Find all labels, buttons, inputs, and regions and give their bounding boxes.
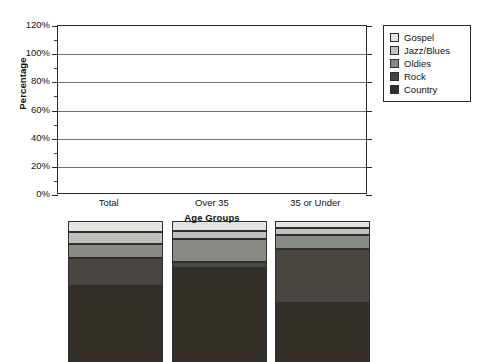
bar-segment-jazz-blues — [275, 228, 370, 235]
legend-label: Jazz/Blues — [404, 45, 450, 56]
chart-legend: GospelJazz/BluesOldiesRockCountry — [383, 25, 471, 102]
bar-segment-jazz-blues — [68, 232, 163, 243]
legend-label: Oldies — [404, 58, 431, 69]
bar-segment-country — [68, 286, 163, 362]
x-tick-label-2: 35 or Under — [264, 197, 367, 208]
y-tick-label-20: 20% — [6, 161, 50, 171]
legend-item: Rock — [390, 70, 466, 83]
y-tick-major-0 — [52, 195, 58, 196]
plot-area — [57, 25, 367, 194]
legend-item: Oldies — [390, 57, 466, 70]
y-tick-major-60 — [52, 111, 58, 112]
y-tick-major-40 — [52, 139, 58, 140]
y-tick-minor-90 — [54, 68, 58, 69]
y-tick-label-80: 80% — [6, 76, 50, 86]
y-tick-label-120: 120% — [6, 20, 50, 30]
y-tick-minor-10 — [54, 181, 58, 182]
bar-group — [172, 24, 267, 193]
legend-item: Gospel — [390, 31, 466, 44]
bar-segment-country — [172, 268, 267, 362]
y-tick-label-0: 0% — [6, 189, 50, 199]
bar-segment-country — [275, 303, 370, 362]
bar-segment-oldies — [68, 244, 163, 258]
y-tick-minor-30 — [54, 153, 58, 154]
legend-swatch-gospel — [390, 33, 399, 42]
legend-swatch-rock — [390, 72, 399, 81]
y-tick-label-60: 60% — [6, 105, 50, 115]
x-tick-label-1: Over 35 — [160, 197, 263, 208]
y-tick-major-80 — [52, 82, 58, 83]
legend-item: Jazz/Blues — [390, 44, 466, 57]
y-tick-major-100 — [52, 54, 58, 55]
bar-segment-oldies — [275, 235, 370, 249]
legend-item: Country — [390, 83, 466, 96]
bar-group — [68, 24, 163, 193]
y-tick-label-40: 40% — [6, 133, 50, 143]
bar-group — [275, 24, 370, 193]
y-tick-major-20 — [52, 167, 58, 168]
x-axis-title: Age Groups — [57, 212, 367, 223]
legend-swatch-jazz-blues — [390, 46, 399, 55]
y-tick-minor-110 — [54, 40, 58, 41]
y-tick-minor-50 — [54, 125, 58, 126]
y-axis-tick-labels: 0%20%40%60%80%100%120% — [6, 0, 50, 240]
bar-segment-rock — [275, 249, 370, 303]
legend-label: Gospel — [404, 32, 434, 43]
y-tick-major-120 — [52, 26, 58, 27]
bar-segment-rock — [172, 262, 267, 268]
y-tick-label-100: 100% — [6, 48, 50, 58]
legend-swatch-country — [390, 85, 399, 94]
y-tick-major-right-0 — [366, 195, 372, 196]
bar-segment-oldies — [172, 239, 267, 262]
bar-segment-jazz-blues — [172, 231, 267, 239]
legend-label: Country — [404, 84, 437, 95]
x-tick-label-0: Total — [57, 197, 160, 208]
legend-swatch-oldies — [390, 59, 399, 68]
legend-label: Rock — [404, 71, 426, 82]
bar-segment-rock — [68, 258, 163, 286]
y-tick-minor-70 — [54, 96, 58, 97]
